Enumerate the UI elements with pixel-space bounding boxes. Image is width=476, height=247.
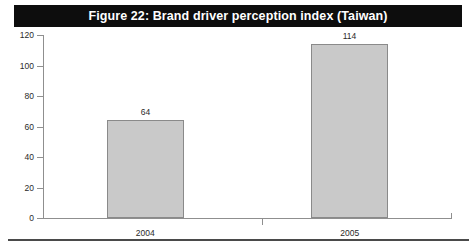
y-axis-tick xyxy=(37,127,43,128)
bar-value-label: 64 xyxy=(107,108,184,117)
x-axis-category-label: 2004 xyxy=(105,229,185,238)
y-axis-tick-label: 120 xyxy=(0,31,34,40)
bar xyxy=(107,120,184,218)
y-axis-tick-label: 80 xyxy=(0,92,34,101)
figure-title: Figure 22: Brand driver perception index… xyxy=(88,9,387,23)
y-axis-tick-label: 0 xyxy=(0,214,34,223)
y-axis-line xyxy=(43,35,44,219)
figure-container: Figure 22: Brand driver perception index… xyxy=(0,0,476,247)
y-axis-tick xyxy=(37,96,43,97)
y-axis-tick-label: 40 xyxy=(0,153,34,162)
y-axis-tick xyxy=(37,157,43,158)
x-axis-category-label: 2005 xyxy=(310,229,390,238)
figure-title-bar: Figure 22: Brand driver perception index… xyxy=(14,5,462,27)
bar xyxy=(311,44,388,218)
x-axis-endcap xyxy=(451,213,452,219)
x-axis-line xyxy=(43,218,452,219)
y-axis-tick xyxy=(37,188,43,189)
bar-value-label: 114 xyxy=(311,32,388,41)
bottom-divider xyxy=(8,239,469,241)
y-axis-tick-label: 100 xyxy=(0,62,34,71)
x-axis-category-divider-tick xyxy=(262,218,263,225)
y-axis-tick-label: 20 xyxy=(0,184,34,193)
chart-plot-area: 020406080100120 64114 20042005 xyxy=(0,30,476,230)
y-axis-tick-label: 60 xyxy=(0,123,34,132)
y-axis-tick xyxy=(37,35,43,36)
y-axis-tick xyxy=(37,66,43,67)
y-axis-tick xyxy=(37,218,43,219)
